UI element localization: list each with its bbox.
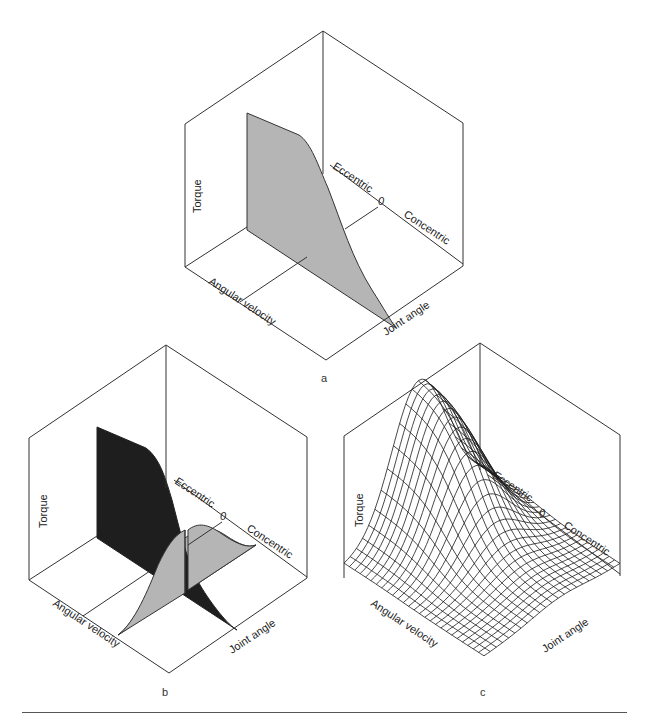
panel-label-a: a [321, 372, 327, 384]
panel-b: Torque Angular velocity Joint angle Ecce… [29, 345, 307, 673]
panel-label-c: c [480, 686, 486, 698]
torque-label-b: Torque [37, 494, 49, 528]
figure-canvas: Torque Angular velocity Joint angle Ecce… [0, 0, 649, 728]
panel-a: Torque Angular velocity Joint angle Ecce… [185, 31, 463, 360]
eccentric-label-b: Eccentric [173, 475, 218, 510]
angular-velocity-label-b: Angular velocity [51, 597, 123, 650]
concentric-label-a: Concentric [402, 208, 453, 247]
panel-c: Torque Angular velocity Joint angle Ecce… [344, 343, 620, 656]
joint-angle-label-b: Joint angle [226, 616, 277, 655]
angular-velocity-label-a: Angular velocity [207, 275, 279, 328]
eccentric-label-a: Eccentric [331, 160, 376, 195]
zero-label-c: 0 [539, 507, 546, 519]
panel-label-b: b [162, 686, 168, 698]
torque-label-c: Torque [353, 493, 365, 527]
zero-label-b: 0 [220, 510, 227, 522]
bell-right-b [188, 525, 256, 590]
torque-sheet-a [247, 113, 396, 328]
caption-divider [22, 712, 627, 713]
torque-label-a: Torque [191, 179, 203, 213]
joint-angle-label-c: Joint angle [539, 615, 590, 654]
zero-label-a: 0 [378, 195, 385, 207]
concentric-label-b: Concentric [245, 522, 296, 561]
